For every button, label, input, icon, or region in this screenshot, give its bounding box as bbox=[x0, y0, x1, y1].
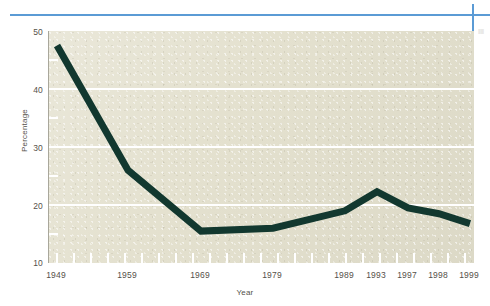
y-tick-label-40: 40 bbox=[17, 85, 43, 95]
x-tick-label-1999: 1999 bbox=[449, 270, 489, 280]
x-minor-ticks bbox=[57, 253, 465, 263]
x-tick-label-1949: 1949 bbox=[36, 270, 76, 280]
data-series-line bbox=[57, 46, 470, 232]
y-tick-label-20: 20 bbox=[17, 201, 43, 211]
x-tick-label-1959: 1959 bbox=[107, 270, 147, 280]
chart-page: ||||||| Percentage 50 40 30 20 10 bbox=[0, 0, 490, 306]
plot-area bbox=[48, 31, 474, 263]
line-chart: Percentage 50 40 30 20 10 bbox=[0, 0, 490, 306]
y-tick-label-30: 30 bbox=[17, 143, 43, 153]
x-axis-title: Year bbox=[0, 288, 490, 297]
x-tick-label-1979: 1979 bbox=[252, 270, 292, 280]
x-tick-label-1969: 1969 bbox=[180, 270, 220, 280]
y-tick-label-50: 50 bbox=[17, 27, 43, 37]
y-tick-label-10: 10 bbox=[17, 258, 43, 268]
plot-svg bbox=[49, 31, 474, 263]
